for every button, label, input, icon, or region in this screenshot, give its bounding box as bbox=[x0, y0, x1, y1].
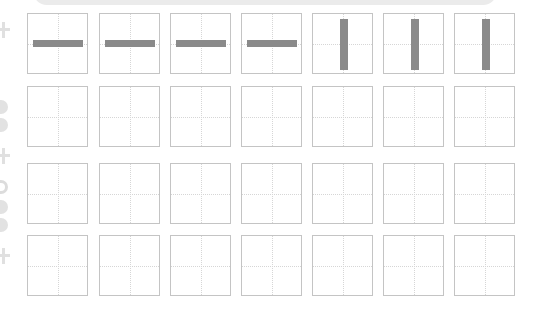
guide-line-horizontal bbox=[455, 194, 514, 195]
writing-cell bbox=[454, 86, 515, 147]
binder-ring-icon bbox=[0, 100, 8, 114]
writing-cell bbox=[27, 86, 88, 147]
writing-cell bbox=[454, 163, 515, 224]
guide-line-horizontal bbox=[100, 117, 159, 118]
writing-cell bbox=[170, 86, 231, 147]
header-banner bbox=[33, 0, 497, 5]
writing-cell bbox=[454, 13, 515, 74]
guide-line-horizontal bbox=[171, 117, 230, 118]
guide-line-horizontal bbox=[28, 117, 87, 118]
writing-cell bbox=[170, 163, 231, 224]
binder-hook-icon bbox=[0, 148, 10, 164]
guide-line-horizontal bbox=[313, 117, 372, 118]
writing-cell bbox=[99, 163, 160, 224]
guide-line-horizontal bbox=[242, 117, 301, 118]
guide-line-horizontal bbox=[242, 194, 301, 195]
guide-line-horizontal bbox=[384, 117, 443, 118]
writing-cell bbox=[312, 163, 373, 224]
vertical-stroke bbox=[411, 19, 419, 70]
binder-hook-icon bbox=[0, 248, 10, 264]
writing-cell bbox=[27, 13, 88, 74]
writing-cell bbox=[99, 86, 160, 147]
binder-ring-icon bbox=[0, 218, 8, 232]
binder-ring-icon bbox=[0, 200, 8, 214]
guide-line-horizontal bbox=[384, 266, 443, 267]
vertical-stroke bbox=[340, 19, 348, 70]
writing-cell bbox=[312, 86, 373, 147]
writing-cell bbox=[241, 86, 302, 147]
binder-ring-icon bbox=[0, 180, 8, 194]
binder-hook-icon bbox=[0, 22, 10, 38]
writing-cell bbox=[383, 86, 444, 147]
writing-cell bbox=[27, 235, 88, 296]
guide-line-horizontal bbox=[455, 266, 514, 267]
guide-line-horizontal bbox=[100, 266, 159, 267]
writing-cell bbox=[241, 13, 302, 74]
writing-cell bbox=[454, 235, 515, 296]
horizontal-stroke bbox=[176, 40, 226, 47]
guide-line-horizontal bbox=[28, 194, 87, 195]
writing-cell bbox=[27, 163, 88, 224]
writing-cell bbox=[241, 235, 302, 296]
vertical-stroke bbox=[482, 19, 490, 70]
binder-ring-icon bbox=[0, 118, 8, 132]
writing-cell bbox=[383, 163, 444, 224]
writing-cell bbox=[99, 13, 160, 74]
horizontal-stroke bbox=[247, 40, 297, 47]
guide-line-horizontal bbox=[242, 266, 301, 267]
writing-cell bbox=[99, 235, 160, 296]
writing-cell bbox=[383, 235, 444, 296]
guide-line-horizontal bbox=[313, 194, 372, 195]
writing-cell bbox=[241, 163, 302, 224]
guide-line-horizontal bbox=[100, 194, 159, 195]
guide-line-horizontal bbox=[313, 266, 372, 267]
writing-cell bbox=[170, 13, 231, 74]
guide-line-horizontal bbox=[455, 117, 514, 118]
guide-line-horizontal bbox=[28, 266, 87, 267]
guide-line-horizontal bbox=[171, 194, 230, 195]
horizontal-stroke bbox=[105, 40, 155, 47]
writing-cell bbox=[170, 235, 231, 296]
guide-line-horizontal bbox=[171, 266, 230, 267]
writing-cell bbox=[312, 235, 373, 296]
horizontal-stroke bbox=[33, 40, 83, 47]
writing-cell bbox=[312, 13, 373, 74]
writing-cell bbox=[383, 13, 444, 74]
guide-line-horizontal bbox=[384, 194, 443, 195]
